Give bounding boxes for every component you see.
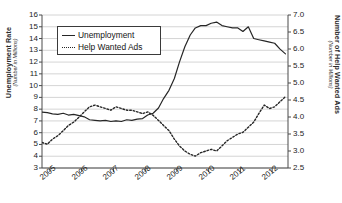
y-axis-left-tick-label: 3 [12, 163, 38, 172]
y-axis-right-tick-label: 4.5 [293, 95, 304, 104]
chart-legend: Unemployment Help Wanted Ads [57, 26, 161, 55]
y-axis-left-tick-label: 6 [12, 128, 38, 137]
y-axis-left-tick-label: 9 [12, 92, 38, 101]
y-axis-left-tick-label: 16 [12, 10, 38, 19]
y-axis-right-tick-label: 7.0 [293, 10, 304, 19]
y-axis-left-tick-label: 10 [12, 81, 38, 90]
legend-item-help-wanted-ads: Help Wanted Ads [62, 41, 160, 53]
y-axis-right-tick-label: 3.5 [293, 129, 304, 138]
y-axis-right-tick-label: 2.5 [293, 163, 304, 172]
series-line-help-wanted-ads [42, 97, 285, 157]
y-axis-left-tick-label: 15 [12, 22, 38, 31]
y-axis-right-tick-label: 3.0 [293, 146, 304, 155]
legend-label-help-wanted-ads: Help Wanted Ads [78, 42, 142, 52]
y-axis-right-title-text: Number of Help Wanted Ads [333, 15, 342, 114]
y-axis-left-tick-label: 11 [12, 69, 38, 78]
y-axis-right-tick-label: 5.5 [293, 61, 304, 70]
y-axis-left-tick-label: 8 [12, 104, 38, 113]
y-axis-right-tick-label: 4.0 [293, 112, 304, 121]
y-axis-right-tick-label: 6.0 [293, 44, 304, 53]
legend-label-unemployment: Unemployment [78, 30, 134, 40]
legend-line-dashed-icon [62, 43, 75, 51]
legend-line-solid-icon [62, 31, 75, 39]
y-axis-right-tick-label: 6.5 [293, 27, 304, 36]
y-axis-left-tick-label: 7 [12, 116, 38, 125]
y-axis-left-tick-label: 13 [12, 45, 38, 54]
y-axis-right-title: Number of Help Wanted Ads (Number in Mil… [327, 9, 340, 121]
y-axis-left-tick-label: 5 [12, 139, 38, 148]
legend-item-unemployment: Unemployment [62, 29, 160, 41]
y-axis-left-tick-label: 12 [12, 57, 38, 66]
y-axis-left-tick-label: 14 [12, 34, 38, 43]
y-axis-left-tick-label: 4 [12, 151, 38, 160]
y-axis-right-tick-label: 5.0 [293, 78, 304, 87]
